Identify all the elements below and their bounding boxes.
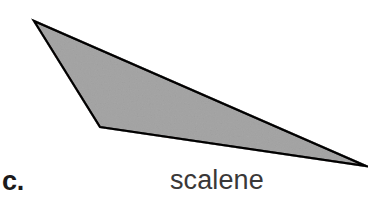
- shape-name-caption: scalene: [170, 167, 264, 194]
- part-label-c: c.: [2, 168, 24, 195]
- figure-canvas: c. scalene: [0, 0, 368, 200]
- triangle-shape: [34, 21, 366, 166]
